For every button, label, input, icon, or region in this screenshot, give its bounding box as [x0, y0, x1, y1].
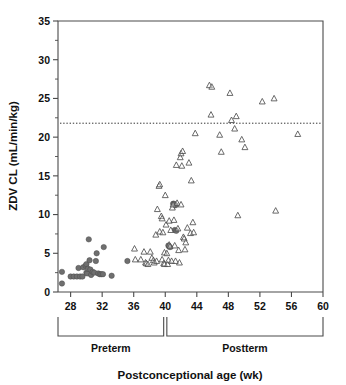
- data-point: [125, 258, 130, 263]
- data-point: [172, 242, 178, 248]
- data-point: [188, 177, 194, 183]
- y-tick-label: 25: [38, 92, 50, 104]
- data-point: [186, 160, 192, 166]
- y-tick-label: 30: [38, 54, 50, 66]
- scatter-plot-figure: 05101520253035 283236404448525660 Preter…: [0, 0, 346, 385]
- data-point: [242, 144, 248, 150]
- x-tick-label: 48: [223, 300, 235, 312]
- data-point: [86, 237, 91, 242]
- x-tick-label: 44: [191, 300, 203, 312]
- data-point: [59, 269, 64, 274]
- x-axis: 283236404448525660: [65, 292, 329, 312]
- data-point: [217, 132, 223, 138]
- x-tick-label: 36: [128, 300, 140, 312]
- data-point: [147, 249, 153, 255]
- group-label-postterm: Postterm: [222, 342, 268, 354]
- data-point: [132, 256, 138, 262]
- data-point: [208, 112, 214, 118]
- y-tick-label: 10: [38, 208, 50, 220]
- x-tick-label: 32: [96, 300, 108, 312]
- data-point: [141, 249, 147, 255]
- x-tick-label: 56: [286, 300, 298, 312]
- y-tick-label: 20: [38, 131, 50, 143]
- plot-canvas: 05101520253035 283236404448525660 Preter…: [0, 0, 346, 385]
- y-tick-label: 15: [38, 170, 50, 182]
- data-point: [109, 273, 114, 278]
- y-tick-label: 5: [44, 247, 50, 259]
- x-tick-label: 28: [65, 300, 77, 312]
- data-point: [271, 95, 277, 101]
- data-point: [101, 244, 106, 249]
- series-postterm-points: [132, 82, 301, 266]
- data-point: [190, 219, 196, 225]
- data-point: [259, 98, 265, 104]
- data-point: [94, 251, 99, 256]
- data-point: [235, 212, 241, 218]
- data-point: [157, 181, 163, 187]
- data-point: [239, 136, 245, 142]
- data-point: [182, 246, 188, 252]
- data-point: [93, 258, 98, 263]
- data-point: [184, 225, 190, 231]
- y-axis: 05101520253035: [38, 15, 58, 298]
- data-point: [295, 131, 301, 137]
- y-tick-label: 35: [38, 15, 50, 27]
- data-point: [132, 246, 138, 252]
- group-label-preterm: Preterm: [91, 342, 131, 354]
- data-point: [171, 217, 177, 223]
- x-axis-title: Postconceptional age (wk): [117, 369, 262, 381]
- data-point: [59, 281, 64, 286]
- data-point: [179, 163, 185, 169]
- data-point: [232, 126, 238, 132]
- x-tick-label: 40: [159, 300, 171, 312]
- data-point: [162, 192, 168, 198]
- data-point: [192, 130, 198, 136]
- data-point: [138, 256, 144, 262]
- data-point: [273, 208, 279, 214]
- x-tick-label: 60: [317, 300, 329, 312]
- data-point: [154, 206, 160, 212]
- y-axis-title: ZDV CL (mL/min/kg): [7, 101, 19, 211]
- data-point: [173, 162, 179, 168]
- y-tick-label: 0: [44, 286, 50, 298]
- data-point: [227, 90, 233, 96]
- group-brackets: [58, 317, 323, 336]
- data-point: [100, 271, 105, 276]
- data-point: [218, 149, 224, 155]
- data-point: [87, 258, 92, 263]
- data-point: [233, 113, 239, 119]
- x-tick-label: 52: [254, 300, 266, 312]
